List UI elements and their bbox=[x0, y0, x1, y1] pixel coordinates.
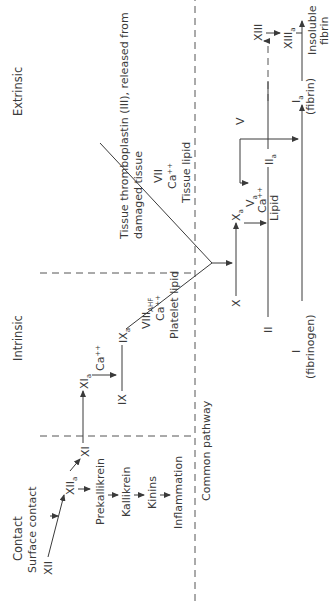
factor-ia: Ia bbox=[290, 95, 305, 103]
lipid: Lipid bbox=[268, 195, 281, 221]
prekallikrein: Prekallikrein bbox=[94, 458, 107, 525]
coagulation-diagram: Contact Intrinsic Extrinsic Common pathw… bbox=[0, 0, 336, 601]
section-extrinsic: Extrinsic bbox=[11, 67, 25, 116]
diagram-canvas: Contact Intrinsic Extrinsic Common pathw… bbox=[0, 0, 336, 601]
common-pathway-label: Common pathway bbox=[200, 400, 213, 501]
fibrin-label: (fibrin) bbox=[304, 78, 317, 115]
xii-to-xiia-arrow bbox=[48, 495, 64, 557]
kallikrein: Kallikrein bbox=[120, 467, 133, 517]
factor-xi: XI bbox=[79, 446, 92, 457]
factor-vii: VII bbox=[152, 169, 165, 183]
factor-viii: VIIIAHF bbox=[140, 298, 155, 329]
factor-ii: II bbox=[262, 327, 275, 334]
tissue-thromboplastin-line2: damaged tissue bbox=[132, 151, 145, 239]
kinins: Kinins bbox=[146, 476, 159, 509]
factor-v: V bbox=[234, 117, 247, 125]
factor-xiiia: XIIIa bbox=[282, 27, 297, 49]
xiia-to-xi-arrow bbox=[70, 459, 80, 471]
calcium-extrinsic: Ca++ bbox=[166, 163, 179, 189]
fibrinogen-label: (fibrinogen) bbox=[304, 315, 317, 380]
surface-contact-label: Surface contact bbox=[26, 486, 39, 573]
factor-ix: IX bbox=[116, 394, 129, 405]
tissue-thromboplastin-line1: Tissue thromboplastin (III), released fr… bbox=[118, 12, 131, 240]
platelet-lipid: Platelet lipid bbox=[168, 271, 181, 339]
factor-ixa: IXa bbox=[117, 328, 132, 343]
factor-iia: IIa bbox=[263, 154, 278, 165]
factor-xa: Xa bbox=[230, 209, 245, 221]
calcium-intrinsic: Ca++ bbox=[94, 345, 107, 371]
factor-xia: XIa bbox=[78, 374, 93, 389]
factor-x: X bbox=[230, 299, 243, 307]
inflammation: Inflammation bbox=[172, 456, 185, 529]
insoluble-fibrin-label: fibrin bbox=[318, 17, 331, 45]
section-contact: Contact bbox=[11, 516, 25, 561]
tissue-lipid: Tissue lipid bbox=[180, 142, 193, 204]
factor-i: I bbox=[290, 350, 303, 353]
factor-xiii: XIII bbox=[252, 24, 265, 41]
factor-xii: XII bbox=[42, 561, 55, 575]
factor-xiia: XIIa bbox=[64, 477, 79, 495]
section-intrinsic: Intrinsic bbox=[11, 315, 25, 361]
